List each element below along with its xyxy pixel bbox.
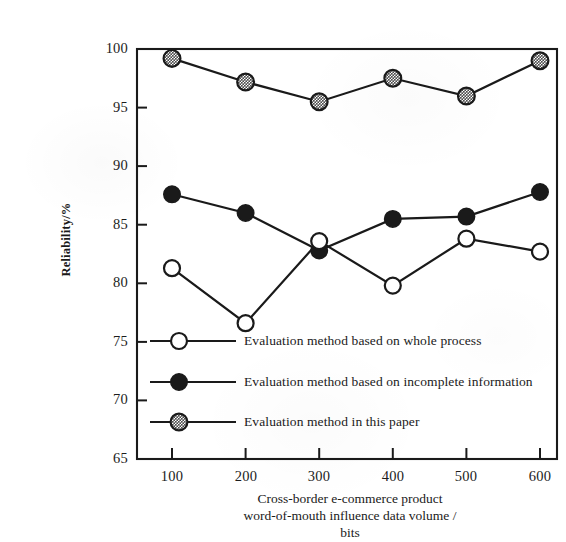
x-tick-label-200: 200: [223, 468, 269, 485]
series-this-paper-markers: [164, 50, 549, 110]
legend-label-incomplete-information: Evaluation method based on incomplete in…: [244, 374, 533, 390]
legend-marker-incomplete-information: [171, 374, 187, 390]
y-tick-label-70: 70: [92, 391, 128, 408]
series-this-paper-line: [172, 58, 540, 101]
y-tick-label-80: 80: [92, 274, 128, 291]
y-tick-label-65: 65: [92, 450, 128, 467]
legend-samples: [150, 333, 236, 430]
series-whole-process-line: [172, 239, 540, 324]
y-tick-label-85: 85: [92, 216, 128, 233]
x-axis-title-line-3: bits: [160, 524, 540, 541]
series-incomplete-information-markers: [164, 184, 548, 259]
x-tick-label-400: 400: [370, 468, 416, 485]
plot-frame: [137, 49, 557, 459]
x-axis-ticks: [172, 448, 540, 459]
x-tick-label-600: 600: [517, 468, 563, 485]
x-tick-label-500: 500: [443, 468, 489, 485]
legend-marker-whole-process: [171, 333, 187, 349]
axes-border: [137, 49, 557, 459]
y-tick-label-95: 95: [92, 99, 128, 116]
legend-label-this-paper: Evaluation method in this paper: [244, 414, 420, 430]
series-whole-process: [172, 239, 540, 324]
y-axis-ticks: [137, 108, 147, 401]
x-axis-title: Cross-border e-commerce product word-of-…: [160, 490, 540, 541]
y-tick-label-90: 90: [92, 157, 128, 174]
x-tick-label-300: 300: [296, 468, 342, 485]
series-incomplete-information: [164, 184, 548, 259]
y-tick-label-75: 75: [92, 333, 128, 350]
y-axis-title: Reliability/%: [59, 190, 74, 290]
series-this-paper: [164, 50, 549, 110]
legend-marker-this-paper: [171, 414, 188, 431]
reliability-line-chart: 100 95 90 85 80 75 70 65 100 200 300 400…: [40, 16, 526, 526]
y-tick-label-100: 100: [92, 40, 128, 57]
x-axis-title-line-1: Cross-border e-commerce product: [160, 490, 540, 507]
x-tick-label-100: 100: [149, 468, 195, 485]
legend-label-whole-process: Evaluation method based on whole process: [244, 333, 482, 349]
series-whole-process-markers: [164, 231, 548, 332]
x-axis-title-line-2: word-of-mouth influence data volume /: [160, 507, 540, 524]
